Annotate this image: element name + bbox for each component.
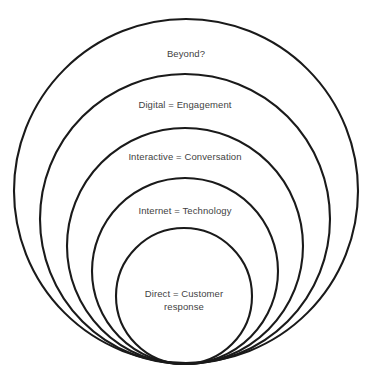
ring-label-direct: Direct = Customer response: [145, 288, 224, 313]
ring-label-internet: Internet = Technology: [138, 205, 231, 218]
ring-label-digital: Digital = Engagement: [138, 99, 231, 112]
nested-circles-diagram: Beyond? Digital = Engagement Interactive…: [0, 0, 375, 382]
ring-label-beyond: Beyond?: [167, 48, 205, 61]
ring-label-interactive: Interactive = Conversation: [128, 151, 241, 164]
